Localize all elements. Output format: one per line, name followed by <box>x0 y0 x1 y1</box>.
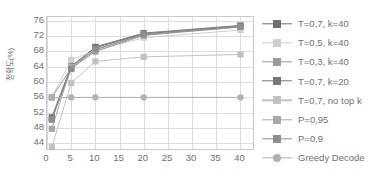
data-point-circle <box>49 94 55 100</box>
data-point-circle <box>237 94 243 100</box>
x-axis-tick-label: 30 <box>186 152 197 163</box>
data-point-square <box>68 80 74 86</box>
data-point-square <box>49 116 55 122</box>
series-7 <box>49 94 244 100</box>
legend-item-label: T=0,7, k=20 <box>292 76 349 87</box>
legend-marker-icon <box>262 152 292 164</box>
series-layer <box>47 17 255 151</box>
legend-square-icon <box>273 58 281 66</box>
data-point-circle <box>141 94 147 100</box>
legend-item[interactable]: Greedy Decode <box>262 148 365 167</box>
series-line <box>52 27 241 129</box>
y-axis-tick-label: 76 <box>33 15 44 25</box>
legend-item-label: T=0,5, k=40 <box>292 37 349 48</box>
y-axis-tick-label: 56 <box>33 91 44 101</box>
x-axis-tick-label: 40 <box>234 152 245 163</box>
data-point-square <box>141 54 147 60</box>
legend-marker-icon <box>262 75 292 87</box>
legend-item[interactable]: T=0,7, no top k <box>262 91 362 110</box>
data-point-circle <box>92 94 98 100</box>
legend-marker-icon <box>262 114 292 126</box>
series-line <box>52 55 241 148</box>
legend-item[interactable]: T=0,7, k=20 <box>262 72 349 91</box>
data-point-square <box>141 32 147 38</box>
x-axis-tick-label: 20 <box>137 152 148 163</box>
legend-marker-icon <box>262 37 292 49</box>
y-axis-title: 정확도(%) <box>6 29 15 101</box>
legend-item-label: T=0,7, k=40 <box>292 18 349 29</box>
data-point-circle <box>68 94 74 100</box>
legend-square-icon <box>273 96 281 104</box>
data-point-square <box>68 66 74 72</box>
legend-marker-icon <box>262 133 292 145</box>
y-axis-tick-label: 68 <box>33 45 44 55</box>
y-axis-tick-label: 52 <box>33 107 44 117</box>
data-point-square <box>92 46 98 52</box>
legend-square-icon <box>273 77 281 85</box>
data-point-square <box>49 144 55 150</box>
series-4 <box>49 51 244 150</box>
legend-marker-icon <box>262 56 292 68</box>
legend-circle-icon <box>273 154 281 162</box>
x-axis-tick-label: 15 <box>113 152 124 163</box>
legend-square-icon <box>273 20 281 28</box>
data-point-square <box>68 57 74 63</box>
legend-item[interactable]: P=0,95 <box>262 110 328 129</box>
y-axis-tick-label: 48 <box>33 122 44 132</box>
legend-item-label: T=0,7, no top k <box>292 95 362 106</box>
data-point-square <box>92 58 98 64</box>
legend-marker-icon <box>262 18 292 30</box>
x-axis-tick-label: 25 <box>162 152 173 163</box>
y-axis-tick-labels: 444852566064687276 <box>16 16 44 150</box>
chart-legend: T=0,7, k=40T=0,5, k=40T=0,3, k=40T=0,7, … <box>262 14 381 169</box>
legend-marker-icon <box>262 94 292 106</box>
data-point-square <box>237 51 243 57</box>
chart-figure: 정확도(%) 444852566064687276 05101520253035… <box>0 0 381 183</box>
legend-item-label: T=0,3, k=40 <box>292 56 349 67</box>
legend-item[interactable]: T=0,7, k=40 <box>262 14 349 33</box>
legend-item-label: P=0,95 <box>292 114 328 125</box>
y-axis-tick-label: 60 <box>33 76 44 86</box>
legend-item[interactable]: T=0,3, k=40 <box>262 52 349 71</box>
x-axis-tick-label: 10 <box>89 152 100 163</box>
y-axis-tick-label: 64 <box>33 61 44 71</box>
legend-item[interactable]: P=0,9 <box>262 129 323 148</box>
legend-square-icon <box>273 135 281 143</box>
x-axis-tick-labels: 0510152025303540 <box>46 152 254 166</box>
data-point-square <box>237 23 243 29</box>
legend-item-label: Greedy Decode <box>292 152 365 163</box>
legend-square-icon <box>273 116 281 124</box>
data-point-square <box>49 126 55 132</box>
legend-square-icon <box>273 39 281 47</box>
plot-area <box>46 16 254 150</box>
x-axis-tick-label: 35 <box>210 152 221 163</box>
y-axis-tick-label: 72 <box>33 30 44 40</box>
y-axis-tick-label: 44 <box>33 137 44 147</box>
legend-item[interactable]: T=0,5, k=40 <box>262 33 349 52</box>
legend-item-label: P=0,9 <box>292 133 323 144</box>
x-axis-tick-label: 0 <box>43 152 48 163</box>
x-axis-tick-label: 5 <box>68 152 73 163</box>
